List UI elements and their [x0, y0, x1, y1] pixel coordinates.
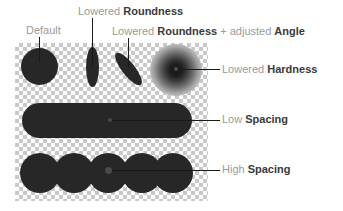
callout-text: High — [222, 163, 248, 175]
callout-label-high-spacing: High Spacing — [222, 164, 290, 175]
leader-anchor-high-spacing — [105, 167, 112, 174]
callout-text: Lowered — [112, 25, 157, 37]
brush-dab — [153, 153, 193, 193]
callout-text: Default — [26, 24, 61, 36]
callout-label-low-spacing: Low Spacing — [222, 114, 288, 125]
leader-anchor-low-spacing — [108, 118, 112, 122]
leader-line-roundness — [92, 18, 93, 66]
callout-emphasis: Spacing — [248, 163, 291, 175]
callout-emphasis: Roundness — [123, 5, 183, 17]
callout-text-middle: + adjusted — [217, 25, 274, 37]
leader-line-high-spacing — [108, 170, 220, 171]
leader-line-default — [39, 37, 40, 62]
callout-text: Lowered — [78, 5, 123, 17]
leader-line-hardness — [175, 69, 220, 70]
callout-label-default: Default — [26, 25, 61, 36]
callout-label-hardness: Lowered Hardness — [222, 64, 317, 75]
callout-label-roundness: Lowered Roundness — [78, 6, 183, 17]
callout-text: Lowered — [222, 63, 267, 75]
callout-emphasis-2: Angle — [274, 25, 305, 37]
leader-line-low-spacing — [110, 120, 220, 121]
callout-emphasis: Roundness — [157, 25, 217, 37]
leader-line-angle — [128, 38, 129, 68]
callout-text: Low — [222, 113, 245, 125]
leader-anchor-hardness — [174, 67, 178, 71]
brush-settings-diagram: Default Lowered Roundness Lowered Roundn… — [0, 0, 343, 211]
callout-emphasis: Hardness — [267, 63, 317, 75]
callout-label-angle: Lowered Roundness + adjusted Angle — [112, 26, 305, 37]
callout-emphasis: Spacing — [245, 113, 288, 125]
